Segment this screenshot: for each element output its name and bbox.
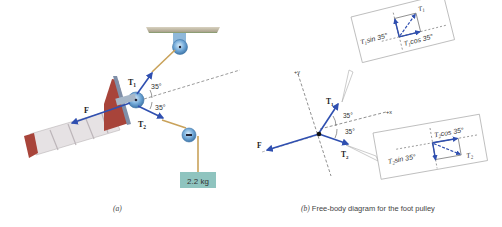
leg <box>24 76 131 158</box>
origin-point <box>317 132 322 137</box>
callout-leader-2 <box>346 145 378 161</box>
caption-b: (b) Free-body diagram for the foot pulle… <box>301 204 435 213</box>
x-axis-label: +x <box>386 109 392 115</box>
label-t1-b: T1 <box>326 97 334 107</box>
inset-t2-components: T2cos 35° T2sin 35° T2 <box>373 114 488 179</box>
label-t2-a: T2 <box>138 120 146 130</box>
angle-upper-a: 35° <box>151 83 162 90</box>
vector-t1-b <box>319 104 338 133</box>
angle-lower-b: 35° <box>345 128 355 135</box>
ceiling-plate <box>146 27 220 33</box>
figure-canvas: 2.2 kg T1 T2 F 35° 35° <box>0 0 502 227</box>
label-f-b: F <box>257 141 262 150</box>
mass-label: 2.2 kg <box>187 177 209 186</box>
caption-a: (a) <box>113 204 122 213</box>
panel-b-free-body-diagram: +y +x T1 T1sin 35° T1cos 35° <box>257 0 488 179</box>
vector-f-b <box>267 134 319 150</box>
inset-t1-components: T1 T1sin 35° T1cos 35° <box>351 0 455 63</box>
label-t1-a: T1 <box>128 78 136 88</box>
label-t2-b: T2 <box>341 150 349 160</box>
panel-a-illustration: 2.2 kg T1 T2 F 35° 35° <box>24 27 240 188</box>
vector-t2-b <box>319 134 348 144</box>
label-f-a: F <box>84 106 89 115</box>
vector-t1 <box>137 73 152 94</box>
rope-lower <box>162 120 186 128</box>
y-axis <box>298 74 331 176</box>
angle-lower-a: 35° <box>155 104 166 111</box>
callout-leader-1 <box>342 70 353 102</box>
rope-upper <box>152 50 175 72</box>
angle-upper-b: 35° <box>343 112 353 119</box>
x-axis <box>320 112 386 129</box>
y-axis-label: +y <box>294 69 300 75</box>
